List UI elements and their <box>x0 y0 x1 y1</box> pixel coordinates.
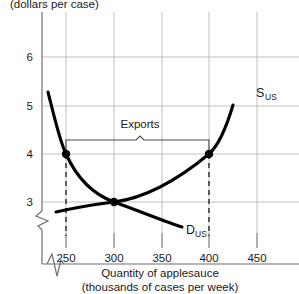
y-tick-label-3: 3 <box>27 196 33 208</box>
supply-demand-chart-figure: 6 5 4 3 250 300 350 400 450 (dollars per… <box>0 0 299 294</box>
x-axis-title-line1: Quantity of applesauce <box>101 267 219 279</box>
x-tick-label-350: 350 <box>152 252 171 264</box>
x-axis-title-line2: (thousands of cases per week) <box>82 281 239 293</box>
point-marker-300-3 <box>110 198 118 206</box>
y-tick-label-5: 5 <box>27 100 33 112</box>
y-axis-title: (dollars per case) <box>10 0 99 10</box>
point-marker-250-4 <box>62 150 70 158</box>
chart-canvas: 6 5 4 3 250 300 350 400 450 (dollars per… <box>0 0 299 294</box>
point-marker-400-4 <box>205 150 213 158</box>
y-axis-break-symbol <box>36 211 48 230</box>
y-tick-label-6: 6 <box>27 51 33 63</box>
x-tick-label-300: 300 <box>104 252 123 264</box>
exports-annotation-label: Exports <box>121 118 160 130</box>
x-tick-label-250: 250 <box>56 252 75 264</box>
demand-curve-label-main: D <box>186 223 195 237</box>
y-tick-label-4: 4 <box>27 148 34 160</box>
supply-curve-label: S US <box>256 86 277 102</box>
demand-curve-label-sub: US <box>195 229 207 239</box>
x-tick-label-400: 400 <box>199 252 218 264</box>
exports-bracket <box>66 136 209 152</box>
demand-curve-label: D US <box>186 223 207 239</box>
x-tick-label-450: 450 <box>247 252 266 264</box>
x-axis-tickmarks <box>66 233 257 248</box>
supply-curve-label-main: S <box>256 86 264 100</box>
supply-curve-label-sub: US <box>265 92 277 102</box>
